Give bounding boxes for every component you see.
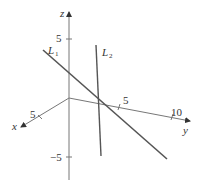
line-l1 bbox=[43, 50, 167, 159]
svg-text:1: 1 bbox=[55, 50, 59, 58]
svg-text:L: L bbox=[47, 44, 54, 56]
x-axis-label: x bbox=[11, 120, 17, 132]
z-axis bbox=[66, 12, 72, 180]
y-tick-label-10: 10 bbox=[171, 106, 183, 118]
x-axis bbox=[21, 98, 69, 127]
svg-text:2: 2 bbox=[109, 52, 113, 60]
y-tick-label-5: 5 bbox=[123, 94, 129, 106]
z-axis-label: z bbox=[59, 7, 65, 19]
y-axis-label: y bbox=[182, 124, 188, 136]
z-tick-label-5: 5 bbox=[56, 32, 62, 44]
line-l2-label: L 2 bbox=[101, 46, 113, 60]
x-tick-label-5: 5 bbox=[30, 108, 36, 120]
line-l1-label: L 1 bbox=[47, 44, 59, 58]
svg-text:L: L bbox=[101, 46, 108, 58]
z-tick-label-neg5: −5 bbox=[50, 151, 62, 163]
diagram-canvas: z 5 −5 x 5 5 10 y L 1 L 2 bbox=[0, 0, 198, 188]
